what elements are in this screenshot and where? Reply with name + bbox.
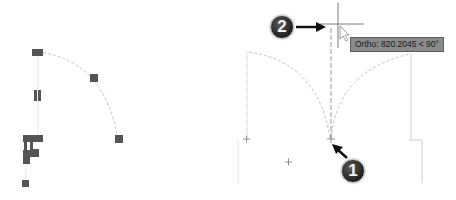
- grip-leaf-mid-a[interactable]: [34, 90, 37, 101]
- ortho-tooltip: Ortho: 820.2045 < 90°: [350, 37, 444, 52]
- grip-arc-end[interactable]: [115, 135, 123, 143]
- selected-door-left[interactable]: [22, 49, 123, 187]
- grip-cluster-1[interactable]: [23, 135, 30, 142]
- grip-bottom[interactable]: [22, 180, 29, 187]
- door-swing-arc-b: [331, 54, 410, 138]
- grip-cluster-5[interactable]: [30, 142, 33, 150]
- point-marker-left: [243, 136, 250, 143]
- grip-cluster-2[interactable]: [29, 135, 36, 142]
- drawing-canvas[interactable]: [0, 0, 456, 200]
- pointer-arrow-icon: [340, 26, 349, 41]
- grip-cluster-4[interactable]: [24, 142, 27, 150]
- grip-cluster-6[interactable]: [23, 150, 31, 157]
- callout-badge-1: 1: [341, 159, 365, 183]
- door-swing-arc-a: [249, 52, 330, 138]
- grip-cluster-7[interactable]: [31, 149, 39, 157]
- door-jamb-outer-right: [409, 140, 422, 183]
- grip-cluster-8[interactable]: [23, 157, 30, 164]
- grip-leaf-mid-b[interactable]: [38, 90, 41, 101]
- grip-arc-mid[interactable]: [90, 74, 98, 82]
- grip-top[interactable]: [32, 49, 43, 56]
- grip-cluster-3[interactable]: [36, 135, 43, 142]
- point-marker-base: [327, 135, 335, 143]
- callout-badge-2: 2: [270, 15, 294, 39]
- door-swing-arc-left: [38, 52, 118, 140]
- point-marker-center: [285, 159, 292, 166]
- callout-arrow-1: [332, 144, 347, 158]
